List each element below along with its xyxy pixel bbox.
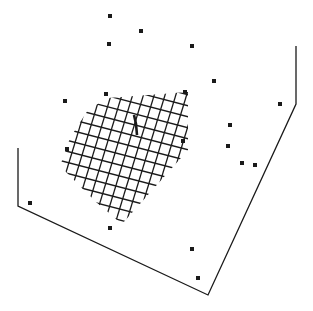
data-point — [108, 226, 112, 230]
grid-line — [24, 63, 224, 115]
grid-line — [11, 22, 79, 246]
grid-line — [0, 206, 180, 258]
data-point — [108, 14, 112, 18]
grid-line — [39, 12, 239, 64]
grid-line — [0, 12, 39, 236]
data-point — [190, 44, 194, 48]
data-point — [139, 29, 143, 33]
data-point — [181, 139, 185, 143]
grid-line — [0, 185, 187, 237]
grid-line — [21, 25, 89, 249]
data-point — [240, 161, 244, 165]
grid-line — [21, 73, 221, 125]
data-point — [278, 102, 282, 106]
data-point — [65, 147, 69, 151]
data-point — [228, 123, 232, 127]
grid-line — [36, 22, 236, 74]
grid-line — [1, 20, 69, 244]
surface-scatter-diagram — [0, 0, 313, 311]
grid-line — [0, 15, 49, 239]
data-point — [183, 90, 187, 94]
grid-line — [161, 61, 229, 285]
grid-line — [30, 43, 230, 95]
data-point — [196, 276, 200, 280]
data-point — [63, 99, 67, 103]
data-point — [28, 201, 32, 205]
grid-line — [18, 83, 218, 135]
grid-line — [0, 196, 183, 248]
data-point — [190, 247, 194, 251]
grid-line — [31, 28, 99, 252]
bounding-box-outline — [18, 46, 296, 295]
grid-line — [0, 236, 171, 288]
grid-line — [0, 216, 177, 268]
grid-line — [0, 17, 59, 241]
diagram-canvas — [0, 0, 313, 311]
data-point — [104, 92, 108, 96]
data-point — [226, 144, 230, 148]
grid-line — [141, 56, 209, 280]
scatter-points — [28, 14, 282, 280]
grid-line — [0, 226, 174, 278]
data-point — [253, 163, 257, 167]
grid-line — [27, 53, 227, 105]
data-point — [212, 79, 216, 83]
grid-line — [171, 64, 239, 288]
grid-line — [0, 165, 193, 217]
grid-line — [33, 32, 233, 84]
data-point — [107, 42, 111, 46]
grid-surface — [0, 12, 239, 288]
